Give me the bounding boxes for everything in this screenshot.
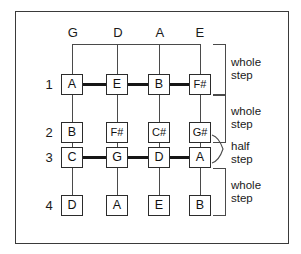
row-3-connector-b: [128, 156, 149, 159]
column-header-2: A: [149, 26, 171, 40]
note-box-r2c1[interactable]: F#: [106, 122, 128, 143]
row-number-1: 1: [42, 78, 56, 92]
row-number-3: 3: [42, 151, 56, 165]
annotation-whole-step-2: whole step: [231, 105, 261, 131]
row-3-connector-a: [83, 156, 107, 159]
note-box-r2c0[interactable]: B: [61, 122, 83, 143]
note-box-r4c0[interactable]: D: [61, 195, 83, 216]
annotation-whole-step-3: whole step: [231, 179, 261, 205]
top-tie-bar: [72, 44, 201, 45]
bracket-spine: [225, 44, 226, 95]
bracket-whole-step-3: [213, 168, 226, 216]
note-box-r4c3[interactable]: B: [189, 195, 211, 216]
tuning-grid-figure: G D A E 1 2 3 4 A E B F# B F# C# G# C G …: [0, 0, 301, 254]
row-1-connector-a: [83, 83, 107, 86]
annotation-whole-step-1: whole step: [231, 56, 261, 82]
row-3-connector-c: [170, 156, 190, 159]
note-box-r1c0[interactable]: A: [61, 74, 83, 95]
bracket-spine: [225, 168, 226, 216]
note-box-r3c3[interactable]: A: [189, 147, 211, 168]
column-header-3: E: [189, 26, 211, 40]
annotation-half-step: half step: [231, 140, 253, 166]
note-box-r3c0[interactable]: C: [61, 147, 83, 168]
note-box-r1c1[interactable]: E: [106, 74, 128, 95]
bracket-whole-step-1: [213, 44, 226, 95]
half-step-brace-icon: [211, 134, 229, 164]
note-box-r3c1[interactable]: G: [106, 147, 128, 168]
column-header-1: D: [107, 26, 129, 40]
note-box-r3c2[interactable]: D: [148, 147, 170, 168]
note-box-r1c3[interactable]: F#: [189, 74, 211, 95]
bracket-bottom-arm: [213, 215, 226, 216]
column-header-0: G: [62, 26, 84, 40]
note-box-r4c2[interactable]: E: [148, 195, 170, 216]
note-box-r1c2[interactable]: B: [148, 74, 170, 95]
row-number-4: 4: [42, 199, 56, 213]
row-1-connector-c: [170, 83, 190, 86]
note-box-r2c3[interactable]: G#: [189, 122, 211, 143]
brace-half-step: [211, 134, 229, 164]
row-1-connector-b: [128, 83, 149, 86]
note-box-r4c1[interactable]: A: [106, 195, 128, 216]
note-box-r2c2[interactable]: C#: [148, 122, 170, 143]
row-number-2: 2: [42, 126, 56, 140]
